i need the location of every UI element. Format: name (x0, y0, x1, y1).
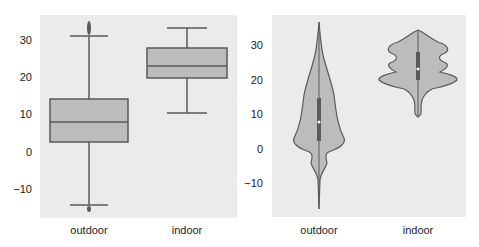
iqr-box (50, 99, 128, 142)
x-axis: outdoor indoor (70, 224, 202, 236)
x-tick-label-indoor: indoor (403, 224, 434, 236)
y-tick-label: −10 (13, 183, 32, 195)
violin-median (417, 68, 420, 71)
y-tick-label: 10 (20, 108, 32, 120)
y-tick-label: −10 (244, 177, 263, 189)
y-axis: 30 20 10 0 −10 (13, 34, 32, 195)
y-tick-label: 20 (251, 74, 263, 86)
y-tick-label: 20 (20, 71, 32, 83)
x-tick-label-outdoor: outdoor (300, 224, 338, 236)
y-tick-label: 0 (26, 146, 32, 158)
y-tick-label: 30 (251, 39, 263, 51)
violin-iqr (317, 98, 321, 141)
violin-plot-panel: 30 20 10 0 −10 outdoor indoor (240, 0, 479, 247)
x-tick-label-outdoor: outdoor (70, 224, 108, 236)
box-plot-panel: 30 20 10 0 −10 outdoor indoor (0, 0, 240, 247)
flier (87, 21, 91, 35)
x-axis: outdoor indoor (300, 224, 433, 236)
y-axis: 30 20 10 0 −10 (244, 39, 263, 189)
violin-iqr (416, 52, 420, 80)
iqr-box (147, 48, 227, 78)
flier (87, 206, 91, 212)
y-tick-label: 30 (20, 34, 32, 46)
y-tick-label: 0 (257, 143, 263, 155)
violin-median (318, 121, 321, 124)
x-tick-label-indoor: indoor (172, 224, 203, 236)
y-tick-label: 10 (251, 108, 263, 120)
